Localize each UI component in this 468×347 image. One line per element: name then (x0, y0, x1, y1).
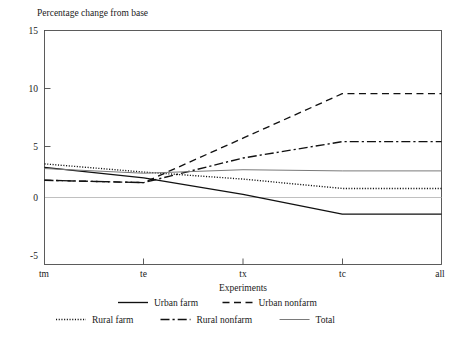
x-axis-tick-labels: tm te tx tc all (39, 269, 445, 279)
legend-label-urban-nonfarm: Urban nonfarm (259, 298, 318, 308)
series-line-urban-farm (45, 167, 442, 214)
y-axis-title: Percentage change from base (37, 8, 148, 18)
y-tick-label-0: 0 (33, 193, 38, 203)
legend-label-rural-nonfarm: Rural nonfarm (197, 315, 253, 325)
x-tick-label-tc: tc (339, 269, 346, 279)
x-tick-label-te: te (140, 269, 147, 279)
x-tick-label-tx: tx (239, 269, 247, 279)
y-axis-ticks: 15 10 5 0 -5 (29, 26, 51, 261)
line-chart-figure: Percentage change from base 15 10 5 0 -5… (0, 0, 468, 347)
chart-legend: Urban farmUrban nonfarmRural farmRural n… (56, 298, 335, 325)
y-tick-label-15: 15 (29, 26, 39, 36)
series-line-rural-farm (45, 164, 442, 189)
x-tick-label-tm: tm (39, 269, 50, 279)
legend-label-rural-farm: Rural farm (92, 315, 134, 325)
x-axis-ticks (144, 259, 343, 265)
legend-label-total: Total (316, 315, 336, 325)
y-tick-label-5: 5 (33, 142, 38, 152)
x-tick-label-all: all (435, 269, 445, 279)
y-tick-label-minus5: -5 (30, 251, 38, 261)
legend-label-urban-farm: Urban farm (154, 298, 199, 308)
series-group (45, 94, 442, 215)
series-line-rural-nonfarm (45, 142, 442, 183)
plot-frame (45, 31, 442, 265)
y-tick-label-10: 10 (29, 84, 39, 94)
x-axis-title: Experiments (219, 283, 267, 293)
